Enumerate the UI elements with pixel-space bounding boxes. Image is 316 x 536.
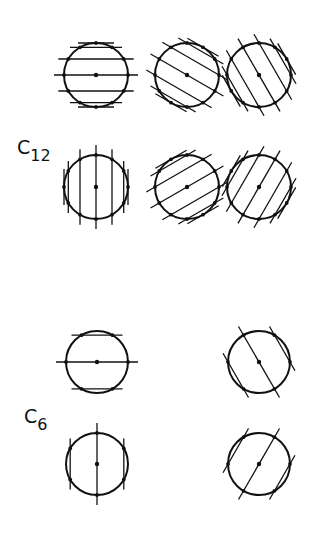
lattice-point: [285, 169, 289, 173]
symmetry-line: [178, 198, 223, 224]
symmetry-figure: [54, 41, 138, 109]
lattice-point: [157, 57, 161, 61]
lattice-point: [80, 387, 84, 391]
symmetry-line: [270, 39, 296, 84]
lattice-point: [242, 435, 246, 439]
center-point: [95, 360, 99, 364]
lattice-point: [62, 185, 66, 189]
lattice-point: [66, 89, 70, 93]
lattice-point: [241, 101, 245, 105]
lattice-point: [273, 435, 277, 439]
lattice-point: [229, 57, 233, 61]
lattice-point: [285, 89, 289, 93]
lattice-point: [94, 217, 98, 221]
lattice-point: [64, 360, 68, 364]
lattice-point: [285, 201, 289, 205]
symmetry-figure: [146, 38, 227, 112]
symmetry-line: [270, 327, 296, 371]
symmetry-line: [270, 455, 296, 499]
lattice-point: [68, 478, 72, 482]
lattice-point: [94, 41, 98, 45]
lattice-point: [257, 153, 261, 157]
lattice-point: [241, 213, 245, 217]
lattice-point: [289, 185, 293, 189]
center-point: [94, 185, 98, 189]
lattice-point: [242, 387, 246, 391]
lattice-point: [273, 489, 277, 493]
lattice-point: [289, 73, 293, 77]
symmetry-figure: [223, 429, 295, 500]
lattice-point: [213, 57, 217, 61]
lattice-point: [122, 447, 126, 451]
center-point: [185, 185, 189, 189]
lattice-point: [185, 41, 189, 45]
lattice-point: [201, 213, 205, 217]
lattice-point: [66, 201, 70, 205]
lattice-point: [126, 360, 130, 364]
center-point: [257, 73, 261, 77]
center-point: [95, 462, 99, 466]
lattice-point: [122, 169, 126, 173]
lattice-point: [110, 101, 114, 105]
lattice-point: [122, 201, 126, 205]
lattice-point: [273, 333, 277, 337]
lattice-point: [78, 45, 82, 49]
lattice-point: [110, 213, 114, 217]
lattice-point: [122, 89, 126, 93]
symmetry-line: [178, 38, 223, 64]
lattice-point: [241, 45, 245, 49]
lattice-point: [62, 73, 66, 77]
symmetry-line: [151, 86, 196, 112]
lattice-point: [78, 213, 82, 217]
lattice-point: [225, 185, 229, 189]
lattice-point: [153, 185, 157, 189]
symmetry-figure: [146, 150, 227, 224]
symmetry-line: [151, 150, 196, 176]
symmetry-diagram: [0, 0, 316, 536]
lattice-point: [226, 462, 230, 466]
lattice-point: [110, 45, 114, 49]
lattice-point: [288, 360, 292, 364]
lattice-point: [213, 201, 217, 205]
lattice-point: [229, 89, 233, 93]
lattice-point: [201, 45, 205, 49]
lattice-point: [122, 478, 126, 482]
lattice-point: [257, 105, 261, 109]
lattice-point: [288, 462, 292, 466]
lattice-point: [94, 153, 98, 157]
lattice-point: [95, 493, 99, 497]
lattice-point: [241, 157, 245, 161]
lattice-point: [111, 387, 115, 391]
lattice-point: [273, 157, 277, 161]
lattice-point: [185, 153, 189, 157]
center-point: [257, 360, 261, 364]
center-point: [185, 73, 189, 77]
lattice-point: [242, 489, 246, 493]
lattice-point: [94, 105, 98, 109]
lattice-point: [257, 217, 261, 221]
lattice-point: [285, 57, 289, 61]
lattice-point: [169, 101, 173, 105]
symmetry-line: [223, 429, 249, 473]
symmetry-line: [222, 66, 248, 111]
lattice-point: [66, 169, 70, 173]
symmetry-line: [270, 178, 296, 223]
center-point: [94, 73, 98, 77]
symmetry-figure: [66, 423, 128, 505]
lattice-point: [68, 447, 72, 451]
lattice-point: [78, 157, 82, 161]
symmetry-figure: [223, 327, 295, 398]
lattice-point: [157, 89, 161, 93]
lattice-point: [80, 333, 84, 337]
lattice-point: [273, 387, 277, 391]
symmetry-figure: [62, 145, 130, 229]
symmetry-line: [223, 353, 249, 397]
lattice-point: [126, 185, 130, 189]
lattice-point: [201, 101, 205, 105]
lattice-point: [126, 73, 130, 77]
lattice-point: [157, 169, 161, 173]
lattice-point: [217, 73, 221, 77]
lattice-point: [153, 73, 157, 77]
lattice-point: [201, 157, 205, 161]
lattice-point: [110, 157, 114, 161]
